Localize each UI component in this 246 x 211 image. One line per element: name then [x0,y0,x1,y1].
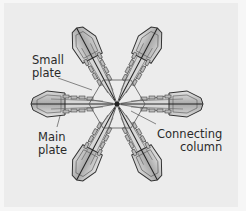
label-connecting-column: Connecting column [157,128,222,154]
label-small-plate: Small plate [32,54,64,80]
label-main-plate: Main plate [38,131,67,157]
snowflake-illustration [0,0,246,211]
snowflake-arms [31,22,203,186]
